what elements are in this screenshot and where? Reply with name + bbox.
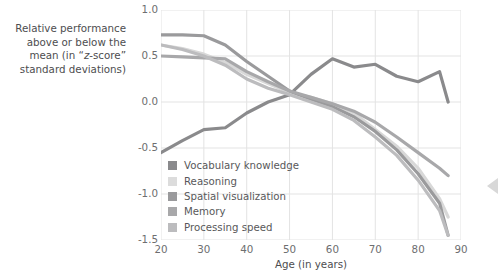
y-axis-label-line-1: Relative performance bbox=[4, 22, 126, 36]
legend-item[interactable]: Spatial visualization bbox=[168, 189, 299, 204]
legend-swatch-icon bbox=[168, 192, 177, 201]
x-tick-label: 50 bbox=[275, 243, 305, 255]
y-axis-label-line-2: above or below the bbox=[4, 36, 126, 50]
y-axis-ticks: -1.5-1.0-0.50.00.51.0 bbox=[118, 0, 158, 272]
chart-figure: Relative performance above or below the … bbox=[0, 0, 499, 272]
legend-swatch-icon bbox=[168, 161, 177, 170]
legend-swatch-icon bbox=[168, 177, 177, 186]
x-tick-label: 60 bbox=[317, 243, 347, 255]
x-tick-label: 20 bbox=[146, 243, 176, 255]
y-tick-label: -0.5 bbox=[120, 141, 158, 153]
y-axis-label: Relative performance above or below the … bbox=[4, 22, 126, 76]
x-tick-label: 80 bbox=[403, 243, 433, 255]
x-axis-ticks: 2030405060708090 bbox=[0, 243, 499, 257]
x-tick-label: 90 bbox=[446, 243, 476, 255]
x-tick-label: 30 bbox=[189, 243, 219, 255]
legend-swatch-icon bbox=[168, 207, 177, 216]
legend-item[interactable]: Processing speed bbox=[168, 220, 299, 235]
y-tick-label: -1.0 bbox=[120, 187, 158, 199]
legend-item-label: Processing speed bbox=[184, 222, 272, 233]
triangle-left-icon bbox=[487, 178, 498, 194]
legend-item-label: Reasoning bbox=[184, 176, 237, 187]
legend-item-label: Vocabulary knowledge bbox=[184, 160, 299, 171]
legend-item-label: Memory bbox=[184, 206, 225, 217]
y-axis-label-line-3: mean (in “z-score” bbox=[4, 49, 126, 63]
legend-item[interactable]: Memory bbox=[168, 204, 299, 219]
legend-swatch-icon bbox=[168, 223, 177, 232]
legend-item[interactable]: Reasoning bbox=[168, 173, 299, 188]
x-tick-label: 40 bbox=[232, 243, 262, 255]
x-tick-label: 70 bbox=[360, 243, 390, 255]
y-axis-label-line-4: standard deviations) bbox=[4, 63, 126, 77]
legend-item-label: Spatial visualization bbox=[184, 191, 286, 202]
y-tick-label: 0.0 bbox=[120, 95, 158, 107]
y-tick-label: 0.5 bbox=[120, 49, 158, 61]
chart-legend: Vocabulary knowledgeReasoningSpatial vis… bbox=[168, 158, 299, 235]
y-tick-label: 1.0 bbox=[120, 3, 158, 15]
legend-item[interactable]: Vocabulary knowledge bbox=[168, 158, 299, 173]
x-axis-label: Age (in years) bbox=[161, 258, 461, 270]
